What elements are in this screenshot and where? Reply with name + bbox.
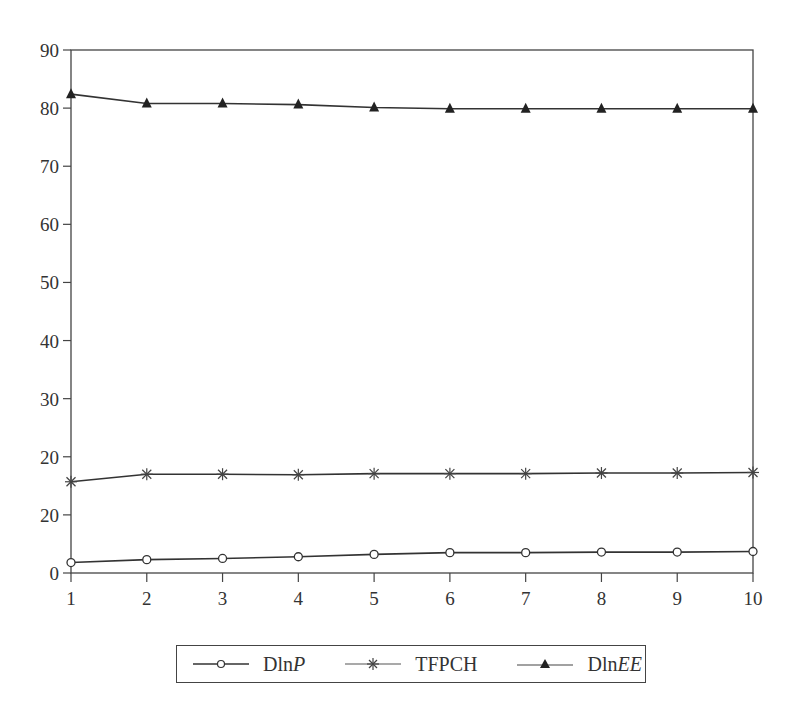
- legend-item-dlnee: DlnEE: [517, 653, 641, 676]
- x-tick-label: 4: [294, 588, 304, 609]
- open-circle-marker-icon: [219, 554, 227, 562]
- y-tick-label: 20: [40, 505, 59, 526]
- asterisk-marker-icon: [292, 469, 304, 481]
- asterisk-marker-icon: [671, 467, 683, 479]
- x-tick-label: 3: [218, 588, 228, 609]
- filled-triangle-marker-icon: [369, 102, 379, 112]
- x-tick-label: 5: [369, 588, 379, 609]
- asterisk-marker-icon: [65, 476, 77, 488]
- asterisk-marker-icon: [141, 468, 153, 480]
- x-tick-label: 7: [521, 588, 531, 609]
- series-line: [71, 472, 753, 481]
- x-tick-label: 10: [744, 588, 763, 609]
- series-line: [71, 94, 753, 109]
- asterisk-marker-icon: [368, 468, 380, 480]
- series-dlnee: [66, 88, 758, 113]
- x-tick-label: 9: [672, 588, 682, 609]
- filled-triangle-marker-icon: [521, 103, 531, 113]
- y-tick-label: 20: [40, 447, 59, 468]
- asterisk-marker-icon: [444, 468, 456, 480]
- y-tick-label: 70: [40, 156, 59, 177]
- open-circle-marker-icon: [370, 550, 378, 558]
- asterisk-marker-icon: [520, 468, 532, 480]
- open-circle-marker-icon: [522, 549, 530, 557]
- open-circle-marker-icon: [193, 659, 249, 669]
- filled-triangle-marker-icon: [517, 658, 573, 670]
- open-circle-marker-icon: [446, 549, 454, 557]
- filled-triangle-marker-icon: [445, 103, 455, 113]
- legend-label-dlnee: DlnEE: [587, 653, 641, 676]
- open-circle-marker-icon: [143, 556, 151, 564]
- asterisk-marker-icon: [345, 657, 401, 671]
- filled-triangle-marker-icon: [218, 97, 228, 107]
- series-line: [71, 551, 753, 562]
- y-tick-label: 30: [40, 389, 59, 410]
- open-circle-marker-icon: [749, 547, 757, 555]
- filled-triangle-marker-icon: [293, 99, 303, 109]
- asterisk-marker-icon: [747, 466, 759, 478]
- y-tick-label: 0: [50, 563, 60, 584]
- x-tick-label: 8: [597, 588, 607, 609]
- open-circle-marker-icon: [673, 548, 681, 556]
- filled-triangle-marker-icon: [748, 103, 758, 113]
- plot-frame: [71, 50, 753, 573]
- asterisk-marker-icon: [595, 467, 607, 479]
- asterisk-marker-icon: [217, 468, 229, 480]
- y-tick-label: 50: [40, 272, 59, 293]
- legend-item-dlnp: DlnP: [193, 653, 305, 676]
- filled-triangle-marker-icon: [596, 103, 606, 113]
- series-group: [65, 88, 759, 566]
- x-tick-label: 1: [66, 588, 76, 609]
- x-tick-label: 6: [445, 588, 455, 609]
- legend-label-dlnp: DlnP: [263, 653, 305, 676]
- open-circle-marker-icon: [294, 553, 302, 561]
- open-circle-marker-icon: [67, 559, 75, 567]
- y-tick-label: 90: [40, 40, 59, 61]
- y-tick-label: 80: [40, 98, 59, 119]
- x-tick-label: 2: [142, 588, 152, 609]
- axes: 020203040506070809012345678910: [40, 40, 763, 609]
- series-dlnp: [67, 547, 757, 566]
- legend-label-tfpch: TFPCH: [415, 653, 477, 676]
- legend-item-tfpch: TFPCH: [345, 653, 477, 676]
- line-chart: 020203040506070809012345678910: [0, 0, 791, 640]
- open-circle-marker-icon: [597, 548, 605, 556]
- filled-triangle-marker-icon: [672, 103, 682, 113]
- series-tfpch: [65, 466, 759, 487]
- filled-triangle-marker-icon: [66, 88, 76, 98]
- y-tick-label: 40: [40, 331, 59, 352]
- legend: DlnP TFPCH DlnEE: [176, 645, 646, 683]
- y-tick-label: 60: [40, 214, 59, 235]
